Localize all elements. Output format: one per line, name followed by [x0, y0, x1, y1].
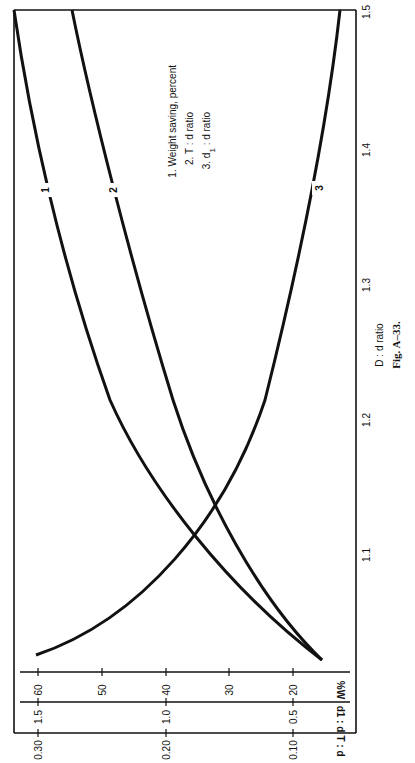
curve-3-label: 3: [314, 185, 325, 191]
curve-2-t-ratio: [72, 10, 322, 660]
axis-t-label: T : d: [335, 735, 346, 756]
x-tick-1.1: 1.1: [361, 548, 372, 562]
d1-tick-1.5: 1.5: [33, 710, 44, 724]
w-tick-50: 50: [97, 684, 108, 696]
figure-caption: Fig. A–33.: [390, 321, 402, 369]
curve-3-d1-ratio: [36, 10, 340, 655]
w-tick-20: 20: [288, 684, 299, 696]
legend: 1. Weight saving, percent 2. T : d ratio…: [167, 65, 217, 178]
d1-tick-0.5: 0.5: [288, 710, 299, 724]
legend-item-2: 2. T : d ratio: [184, 112, 195, 165]
axis-d1: 1.5 1.0 0.5 d1 : d: [20, 698, 350, 732]
axis-w-label: %W: [335, 681, 346, 700]
chart: 60 50 40 30 20 %W 1.5 1.0 0.5 d1 : d 0.3…: [0, 0, 415, 763]
t-tick-0.20: 0.20: [161, 740, 172, 760]
legend-3-suffix: : d ratio: [201, 112, 212, 149]
axis-d1-label: d1 : d: [335, 706, 346, 733]
t-tick-0.10: 0.10: [288, 740, 299, 760]
legend-item-1: 1. Weight saving, percent: [167, 65, 178, 178]
x-tick-1.4: 1.4: [361, 143, 372, 157]
d1-tick-1.0: 1.0: [161, 710, 172, 724]
axis-w: 60 50 40 30 20 %W: [20, 668, 350, 700]
axis-x: 1.1 1.2 1.3 1.4 1.5 D : d ratio: [361, 5, 385, 562]
t-tick-0.30: 0.30: [33, 740, 44, 760]
x-tick-1.2: 1.2: [361, 413, 372, 427]
x-axis-label: D : d ratio: [374, 323, 385, 367]
legend-3-prefix: 3. d: [201, 153, 212, 170]
w-tick-60: 60: [33, 684, 44, 696]
x-tick-1.3: 1.3: [361, 278, 372, 292]
legend-item-3: 3. d1 : d ratio: [201, 112, 217, 170]
w-tick-30: 30: [224, 684, 235, 696]
x-tick-1.5: 1.5: [361, 5, 372, 19]
w-tick-40: 40: [161, 684, 172, 696]
curve-labels: 1 2 3: [38, 181, 326, 197]
curve-1-label: 1: [40, 187, 51, 193]
curve-2-label: 2: [108, 187, 119, 193]
